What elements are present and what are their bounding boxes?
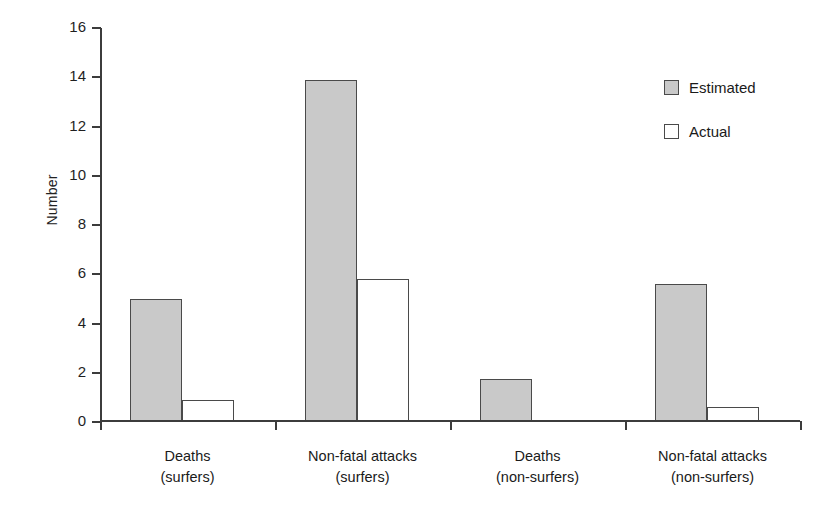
y-tick-label-14: 14 bbox=[40, 67, 86, 84]
y-tick-label-4: 4 bbox=[40, 314, 86, 331]
legend-item-actual: Actual bbox=[664, 116, 756, 146]
bar-chart-figure: Number 0246810121416 Deaths(surfers)Non-… bbox=[0, 0, 817, 513]
x-tick-2 bbox=[450, 421, 452, 430]
y-tick-label-0: 0 bbox=[40, 412, 86, 429]
x-category-label-1: Non-fatal attacks(surfers) bbox=[275, 446, 450, 488]
legend-swatch-estimated-icon bbox=[664, 80, 679, 95]
x-category-label-line: (surfers) bbox=[275, 467, 450, 488]
x-category-label-3: Non-fatal attacks(non-surfers) bbox=[625, 446, 800, 488]
x-tick-0 bbox=[100, 421, 102, 430]
bar-actual-0 bbox=[182, 400, 234, 422]
bar-estimated-0 bbox=[130, 299, 182, 422]
x-category-label-line: Deaths bbox=[100, 446, 275, 467]
y-tick-label-6: 6 bbox=[40, 264, 86, 281]
legend-label-actual: Actual bbox=[689, 123, 731, 140]
bar-estimated-1 bbox=[305, 80, 357, 422]
x-category-label-0: Deaths(surfers) bbox=[100, 446, 275, 488]
legend-label-estimated: Estimated bbox=[689, 79, 756, 96]
x-category-label-line: (non-surfers) bbox=[450, 467, 625, 488]
legend-item-estimated: Estimated bbox=[664, 72, 756, 102]
bar-estimated-3 bbox=[655, 284, 707, 422]
x-tick-4 bbox=[800, 421, 802, 430]
x-tick-1 bbox=[275, 421, 277, 430]
y-tick-label-12: 12 bbox=[40, 117, 86, 134]
x-tick-3 bbox=[625, 421, 627, 430]
y-tick-label-16: 16 bbox=[40, 18, 86, 35]
x-category-label-line: (non-surfers) bbox=[625, 467, 800, 488]
y-tick-label-10: 10 bbox=[40, 166, 86, 183]
bar-estimated-2 bbox=[480, 379, 532, 422]
x-category-label-line: Deaths bbox=[450, 446, 625, 467]
x-category-label-2: Deaths(non-surfers) bbox=[450, 446, 625, 488]
x-category-label-line: Non-fatal attacks bbox=[625, 446, 800, 467]
y-tick-label-2: 2 bbox=[40, 363, 86, 380]
legend-swatch-actual-icon bbox=[664, 124, 679, 139]
x-category-label-line: Non-fatal attacks bbox=[275, 446, 450, 467]
chart-legend: EstimatedActual bbox=[664, 72, 756, 160]
y-tick-label-8: 8 bbox=[40, 215, 86, 232]
bar-actual-1 bbox=[357, 279, 409, 422]
x-category-label-line: (surfers) bbox=[100, 467, 275, 488]
